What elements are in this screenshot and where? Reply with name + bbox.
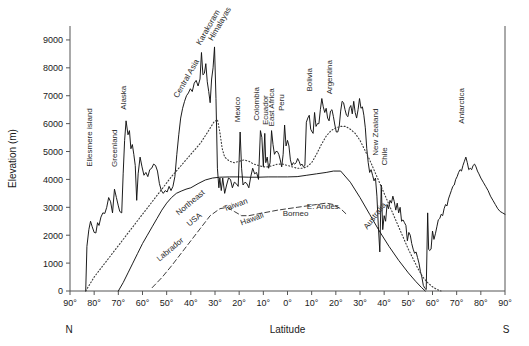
annotation-label: Ellesmere island bbox=[85, 108, 94, 167]
elevation-latitude-chart: 010002000300040005000600070008000900090°… bbox=[0, 0, 529, 346]
annotation-label: E. Andes bbox=[307, 202, 339, 211]
annotation-label: Hawaii bbox=[239, 211, 265, 228]
annotation-label: Argentina bbox=[325, 60, 334, 95]
annotation-label: Antarctica bbox=[457, 88, 466, 124]
y-tick-label: 8000 bbox=[43, 63, 63, 73]
x-tick-label: 70° bbox=[450, 298, 464, 308]
x-tick-label: 90° bbox=[498, 298, 512, 308]
y-axis-title: Elevation (m) bbox=[7, 129, 18, 188]
x-tick-label: 50° bbox=[160, 298, 174, 308]
y-tick-label: 1000 bbox=[43, 259, 63, 269]
x-tick-label: 40° bbox=[377, 298, 391, 308]
y-tick-label: 5000 bbox=[43, 147, 63, 157]
y-tick-label: 7000 bbox=[43, 91, 63, 101]
x-tick-label: 30° bbox=[353, 298, 367, 308]
y-tick-label: 9000 bbox=[43, 35, 63, 45]
annotation-label: East Africa bbox=[267, 88, 276, 127]
series-treeline bbox=[118, 171, 425, 291]
y-tick-label: 6000 bbox=[43, 119, 63, 129]
series-max-elevation bbox=[86, 47, 505, 291]
y-tick-label: 3000 bbox=[43, 203, 63, 213]
x-tick-label: 10° bbox=[257, 298, 271, 308]
x-tick-label: 60° bbox=[426, 298, 440, 308]
y-tick-label: 2000 bbox=[43, 231, 63, 241]
south-label: S bbox=[503, 324, 510, 335]
annotation-label: Peru bbox=[277, 94, 286, 111]
y-tick-label: 0 bbox=[58, 286, 63, 296]
x-tick-label: 80° bbox=[474, 298, 488, 308]
x-tick-label: 70° bbox=[112, 298, 126, 308]
x-tick-label: 80° bbox=[87, 298, 101, 308]
x-tick-label: 40° bbox=[184, 298, 198, 308]
x-tick-label: 50° bbox=[402, 298, 416, 308]
x-tick-label: 60° bbox=[136, 298, 150, 308]
north-label: N bbox=[65, 324, 72, 335]
annotation-label: New Zealand bbox=[371, 109, 380, 156]
annotation-label: Alaska bbox=[119, 85, 128, 110]
y-tick-label: 4000 bbox=[43, 175, 63, 185]
annotation-label: Labrador bbox=[155, 236, 186, 264]
annotation-label: USA bbox=[185, 210, 204, 228]
annotation-label: Borneo bbox=[283, 209, 309, 218]
chart-canvas: 010002000300040005000600070008000900090°… bbox=[0, 0, 529, 346]
x-tick-label: 20° bbox=[329, 298, 343, 308]
x-tick-label: 20° bbox=[232, 298, 246, 308]
annotation-label: Taiwan bbox=[222, 196, 248, 213]
annotation-label: Central Asia bbox=[172, 57, 202, 99]
x-tick-label: 10° bbox=[305, 298, 319, 308]
x-tick-label: 0° bbox=[283, 298, 292, 308]
annotation-label: Mexico bbox=[233, 96, 242, 122]
annotation-label: Chile bbox=[380, 147, 389, 166]
x-tick-label: 30° bbox=[208, 298, 222, 308]
x-tick-label: 90° bbox=[63, 298, 77, 308]
annotation-label: Bolivia bbox=[305, 67, 314, 91]
x-axis-title: Latitude bbox=[270, 324, 306, 335]
annotation-label: Greenland bbox=[110, 130, 119, 167]
